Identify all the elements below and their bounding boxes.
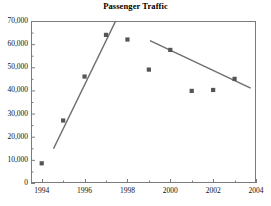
data-point-marker — [125, 37, 129, 41]
data-point-marker — [168, 48, 172, 52]
chart-canvas — [0, 0, 271, 206]
x-tick-label: 1994 — [25, 187, 59, 195]
data-point-marker — [232, 77, 236, 81]
data-point-marker — [147, 68, 151, 72]
chart-root: Passenger Traffic 010,00020,00030,00040,… — [0, 0, 271, 206]
decline-trend — [150, 41, 251, 88]
y-tick-label: 40,000 — [0, 86, 28, 94]
x-tick-label: 2000 — [153, 187, 187, 195]
y-tick-label: 70,000 — [0, 17, 28, 25]
y-tick-label: 20,000 — [0, 133, 28, 141]
y-tick-label: 0 — [0, 179, 28, 187]
trend-lines — [54, 21, 251, 149]
y-tick-label: 30,000 — [0, 110, 28, 118]
y-tick-label: 10,000 — [0, 156, 28, 164]
data-point-marker — [104, 33, 108, 37]
x-tick-label: 1998 — [110, 187, 144, 195]
axis-ticks — [31, 22, 257, 184]
data-point-marker — [82, 74, 86, 78]
y-tick-label: 50,000 — [0, 63, 28, 71]
x-tick-label: 1996 — [68, 187, 102, 195]
data-point-marker — [190, 89, 194, 93]
data-markers — [40, 33, 237, 166]
x-tick-label: 2002 — [196, 187, 230, 195]
growth-trend — [54, 21, 116, 149]
x-tick-label: 2004 — [239, 187, 271, 195]
y-tick-label: 60,000 — [0, 40, 28, 48]
data-point-marker — [211, 88, 215, 92]
data-point-marker — [40, 161, 44, 165]
data-point-marker — [61, 118, 65, 122]
